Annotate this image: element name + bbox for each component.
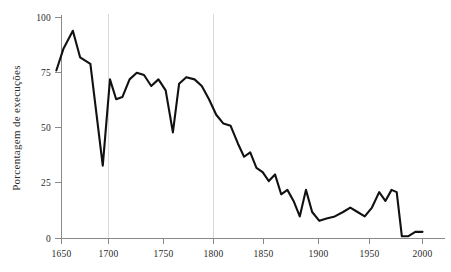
y-tick-label-100: 100 — [36, 13, 51, 23]
x-tick-label-1900: 1900 — [309, 249, 329, 259]
line-chart: 100 75 50 25 0 1650 1700 1750 1800 1850 … — [0, 0, 451, 272]
x-tick-label-1850: 1850 — [254, 249, 274, 259]
y-axis-title: Porcentagem de execuções — [10, 65, 22, 191]
y-tick-label-75: 75 — [41, 68, 51, 78]
chart-figure: 100 75 50 25 0 1650 1700 1750 1800 1850 … — [0, 0, 451, 272]
x-tick-label-1650: 1650 — [52, 249, 72, 259]
x-tick-label-1750: 1750 — [154, 249, 174, 259]
y-tick-label-50: 50 — [41, 123, 51, 133]
x-tick-label-1800: 1800 — [204, 249, 224, 259]
y-tick-label-0: 0 — [46, 234, 51, 244]
x-tick-label-1950: 1950 — [360, 249, 380, 259]
data-series-line — [56, 31, 422, 237]
x-tick-label-2000: 2000 — [413, 249, 433, 259]
y-tick-label-25: 25 — [41, 178, 51, 188]
x-tick-label-1700: 1700 — [99, 249, 119, 259]
y-axis-ticks — [55, 18, 62, 239]
gridlines — [109, 14, 214, 238]
